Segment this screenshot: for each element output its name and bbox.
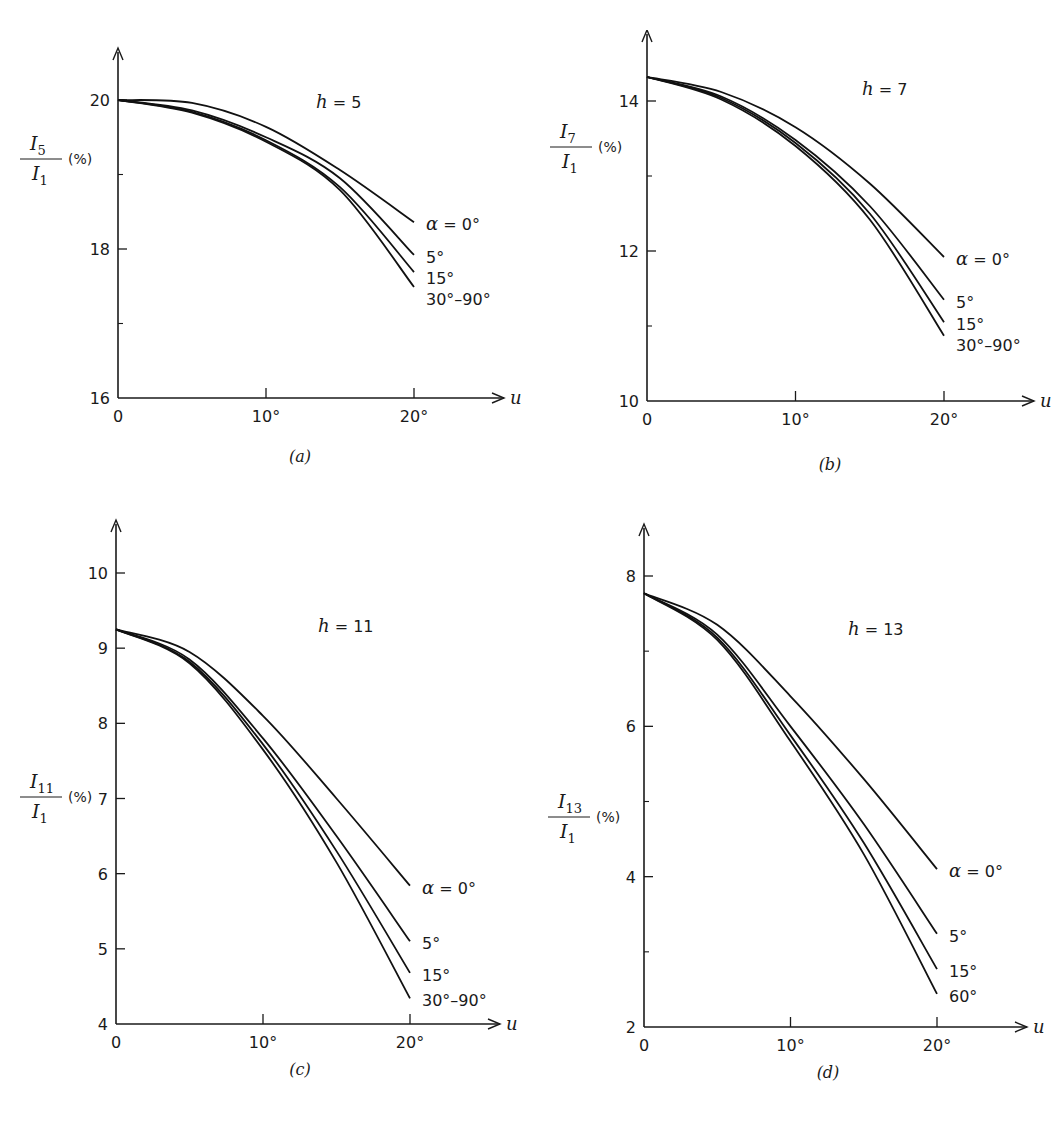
series-label: α = 0° bbox=[422, 877, 476, 898]
series-line bbox=[647, 77, 944, 322]
chart-c: u010°20°45678910I11I1(%)h = 11α = 0°5°15… bbox=[0, 510, 530, 1090]
y-tick-label: 9 bbox=[98, 639, 108, 658]
series-line bbox=[118, 100, 414, 272]
panel-caption: (c) bbox=[289, 1060, 310, 1079]
y-tick-label: 10 bbox=[619, 392, 639, 411]
y-tick-label: 16 bbox=[90, 389, 110, 408]
y-tick-label: 5 bbox=[98, 940, 108, 959]
y-axis-label-unit: (%) bbox=[596, 809, 620, 825]
series-line bbox=[647, 77, 944, 336]
series-line bbox=[644, 593, 937, 969]
y-axis-label-denominator: I1 bbox=[561, 150, 578, 176]
y-tick-label: 20 bbox=[90, 91, 110, 110]
x-tick-label: 0 bbox=[642, 410, 652, 429]
series-label: α = 0° bbox=[426, 213, 480, 234]
chart-title: h = 11 bbox=[318, 615, 374, 636]
x-tick-label: 10° bbox=[252, 407, 280, 426]
panel-caption: (a) bbox=[289, 447, 311, 466]
x-tick-label: 20° bbox=[400, 407, 428, 426]
series-label: 15° bbox=[949, 962, 977, 981]
chart-title: h = 7 bbox=[862, 78, 907, 99]
series-label: 15° bbox=[426, 269, 454, 288]
chart-a: u010°20°161820I5I1(%)h = 5α = 0°5°15°30°… bbox=[0, 30, 530, 490]
series-line bbox=[644, 593, 937, 934]
y-tick-label: 7 bbox=[98, 790, 108, 809]
y-axis-label-numerator: I5 bbox=[29, 132, 46, 158]
x-axis-label: u bbox=[1033, 1016, 1045, 1037]
y-tick-label: 12 bbox=[619, 242, 639, 261]
y-axis-label-denominator: I1 bbox=[559, 820, 576, 846]
y-axis-label-denominator: I1 bbox=[31, 162, 48, 188]
x-tick-label: 0 bbox=[111, 1033, 121, 1052]
y-tick-label: 8 bbox=[98, 714, 108, 733]
y-tick-label: 10 bbox=[88, 564, 108, 583]
series-line bbox=[118, 100, 414, 255]
series-label: 15° bbox=[956, 315, 984, 334]
chart-d: u010°20°2468I13I1(%)h = 13α = 0°5°15°60°… bbox=[530, 510, 1059, 1090]
series-line bbox=[647, 77, 944, 300]
y-axis-label-denominator: I1 bbox=[31, 800, 48, 826]
y-axis-label-unit: (%) bbox=[598, 139, 622, 155]
x-tick-label: 20° bbox=[396, 1033, 424, 1052]
x-axis-label: u bbox=[506, 1013, 518, 1034]
y-tick-label: 4 bbox=[98, 1015, 108, 1034]
x-axis-label: u bbox=[1040, 390, 1052, 411]
x-tick-label: 20° bbox=[923, 1036, 951, 1055]
y-axis-label-unit: (%) bbox=[68, 151, 92, 167]
y-axis-label-numerator: I11 bbox=[29, 770, 54, 796]
series-label: 60° bbox=[949, 987, 977, 1006]
series-label: 5° bbox=[949, 927, 967, 946]
series-line bbox=[116, 629, 410, 998]
series-line bbox=[644, 593, 937, 994]
series-label: 5° bbox=[956, 293, 974, 312]
series-line bbox=[118, 100, 414, 287]
y-axis-label-unit: (%) bbox=[68, 789, 92, 805]
series-line bbox=[116, 629, 410, 885]
x-tick-label: 0 bbox=[639, 1036, 649, 1055]
chart-panel-a: u010°20°161820I5I1(%)h = 5α = 0°5°15°30°… bbox=[0, 30, 530, 490]
series-label: 30°–90° bbox=[956, 336, 1021, 355]
y-axis-label-numerator: I7 bbox=[559, 120, 576, 146]
x-tick-label: 10° bbox=[249, 1033, 277, 1052]
y-axis-label-numerator: I13 bbox=[557, 790, 582, 816]
series-label: 5° bbox=[422, 934, 440, 953]
chart-panel-c: u010°20°45678910I11I1(%)h = 11α = 0°5°15… bbox=[0, 510, 530, 1090]
chart-title: h = 5 bbox=[316, 91, 361, 112]
x-axis-label: u bbox=[510, 387, 522, 408]
series-label: 30°–90° bbox=[422, 991, 487, 1010]
series-line bbox=[116, 629, 410, 973]
panel-caption: (b) bbox=[819, 455, 842, 474]
chart-panel-b: u010°20°101214I7I1(%)h = 7α = 0°5°15°30°… bbox=[530, 30, 1059, 490]
chart-title: h = 13 bbox=[848, 618, 904, 639]
series-label: 30°–90° bbox=[426, 290, 491, 309]
series-label: α = 0° bbox=[956, 248, 1010, 269]
series-line bbox=[118, 100, 414, 222]
series-label: α = 0° bbox=[949, 860, 1003, 881]
y-tick-label: 18 bbox=[90, 240, 110, 259]
chart-b: u010°20°101214I7I1(%)h = 7α = 0°5°15°30°… bbox=[530, 30, 1059, 490]
y-tick-label: 6 bbox=[626, 717, 636, 736]
series-label: 5° bbox=[426, 248, 444, 267]
y-tick-label: 2 bbox=[626, 1018, 636, 1037]
y-tick-label: 6 bbox=[98, 865, 108, 884]
series-line bbox=[647, 77, 944, 257]
chart-panel-d: u010°20°2468I13I1(%)h = 13α = 0°5°15°60°… bbox=[530, 510, 1059, 1090]
series-label: 15° bbox=[422, 966, 450, 985]
x-tick-label: 20° bbox=[930, 410, 958, 429]
y-tick-label: 8 bbox=[626, 567, 636, 586]
panel-caption: (d) bbox=[817, 1063, 840, 1082]
y-tick-label: 14 bbox=[619, 92, 639, 111]
y-tick-label: 4 bbox=[626, 868, 636, 887]
x-tick-label: 10° bbox=[781, 410, 809, 429]
series-line bbox=[116, 629, 410, 941]
x-tick-label: 0 bbox=[113, 407, 123, 426]
x-tick-label: 10° bbox=[776, 1036, 804, 1055]
